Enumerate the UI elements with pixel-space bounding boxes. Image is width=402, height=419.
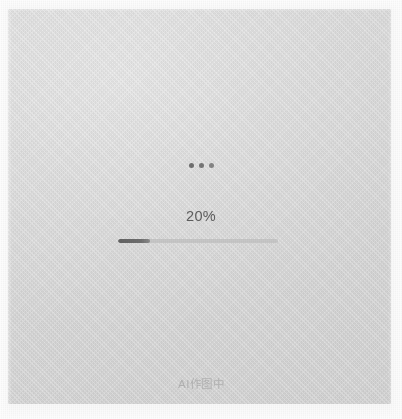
status-text: AI作图中 [0, 375, 402, 391]
loading-dot-2-icon [199, 163, 204, 168]
progress-bar-fill [118, 239, 150, 243]
generation-progress-screen: 20% AI作图中 [0, 0, 402, 419]
loading-dots-indicator [0, 163, 402, 168]
loading-dot-3-icon [209, 163, 214, 168]
progress-bar-track [118, 239, 278, 243]
progress-percent-label: 20% [0, 208, 402, 224]
card-content: 20% AI作图中 [0, 0, 402, 419]
loading-dot-1-icon [189, 163, 194, 168]
